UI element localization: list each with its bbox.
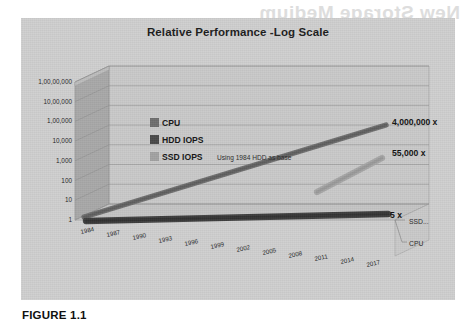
z-tick-label-ssd: SSD... [409,218,429,225]
y-axis-tick-labels: 1,00,00,000 10,00,000 1,00,000 10,000 1,… [38,78,72,223]
y-tick-label: 1 [68,216,72,223]
x-tick-label: 1984 [80,225,95,235]
data-label-cpu: 4,000,000 x [392,117,438,127]
y-tick-label: 10,00,000 [44,98,73,105]
x-tick-label: 2002 [236,243,251,253]
x-tick-label: 1993 [158,234,173,244]
y-tick-label: 10,000 [52,137,72,144]
legend-swatch-hdd [150,135,159,144]
x-axis-tick-labels: 1984 1987 1990 1993 1996 1999 2002 2005 … [80,225,381,268]
z-tick-label-cpu: CPU [409,240,423,247]
x-tick-label: 2008 [288,249,303,259]
legend-note: Using 1984 HDD as base [217,154,292,162]
y-tick-label: 1,000 [56,157,72,164]
legend-label-cpu: CPU [162,118,180,128]
legend-label-ssd: SSD IOPS [162,152,203,162]
x-tick-label: 2014 [340,255,355,265]
data-label-hdd: 5 x [390,210,402,220]
x-tick-label: 2011 [314,252,329,262]
x-tick-label: 1990 [132,231,147,241]
legend-label-hdd: HDD IOPS [162,135,204,145]
chart-image: Relative Performance -Log Scale [21,18,455,300]
y-tick-label: 1,00,00,000 [38,78,72,85]
x-tick-label: 1987 [106,228,121,238]
legend-swatch-ssd [150,152,159,161]
y-tick-label: 1,00,000 [47,117,72,124]
x-tick-label: 1999 [210,240,225,250]
x-tick-label: 2005 [262,246,277,256]
data-label-ssd: 55,000 x [392,148,426,158]
chart-plot-area: 1,00,00,000 10,00,000 1,00,000 10,000 1,… [21,18,455,300]
left-side-wall [75,66,109,220]
x-tick-label: 1996 [184,237,199,247]
x-tick-label: 2017 [366,258,381,268]
y-tick-label: 100 [61,177,72,184]
legend-swatch-cpu [150,118,159,127]
y-tick-label: 10 [65,196,73,203]
figure-caption: FIGURE 1.1 [22,309,87,321]
